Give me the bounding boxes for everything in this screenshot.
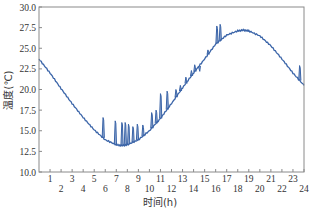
- temperature-spike: [155, 110, 157, 123]
- plot-area: [39, 24, 304, 146]
- x-tick-label: 16: [211, 184, 221, 194]
- x-tick-label: 9: [136, 174, 141, 184]
- temperature-spike: [216, 26, 218, 43]
- temperature-spike: [299, 66, 301, 81]
- x-tick-label: 21: [266, 174, 276, 184]
- temperature-spike: [198, 66, 200, 71]
- x-tick-label: 17: [222, 174, 232, 184]
- x-tick-label: 1: [48, 174, 53, 184]
- x-tick-label: 8: [125, 184, 130, 194]
- temperature-spike: [160, 94, 162, 119]
- x-tick-label: 2: [59, 184, 64, 194]
- x-tick-label: 19: [244, 174, 254, 184]
- x-axis-title: 时间(h): [143, 196, 177, 208]
- x-tick-label: 12: [167, 184, 177, 194]
- y-tick-label: 20.0: [19, 85, 36, 95]
- x-tick-label: 10: [145, 184, 155, 194]
- y-tick-label: 30.0: [19, 3, 36, 13]
- temperature-spike: [166, 91, 168, 109]
- x-tick-label: 18: [233, 184, 243, 194]
- temperature-spike: [114, 121, 116, 144]
- x-tick-label: 24: [299, 184, 309, 194]
- temperature-spike: [102, 118, 104, 138]
- y-tick-label: 12.5: [19, 147, 36, 157]
- temperature-spike: [179, 85, 181, 91]
- temperature-series-line: [39, 29, 304, 146]
- temperature-spike: [190, 71, 192, 76]
- temperature-spike: [185, 77, 187, 83]
- y-axis-title: 温度(℃): [2, 70, 14, 109]
- x-tick-label: 13: [178, 174, 188, 184]
- temperature-spike: [151, 113, 153, 129]
- temperature-spike: [194, 65, 196, 72]
- x-axis: 123456789101112131415161718192021222324: [48, 169, 309, 194]
- x-tick-label: 6: [103, 184, 108, 194]
- y-tick-label: 25.0: [19, 44, 36, 54]
- y-tick-label: 10.0: [19, 168, 36, 178]
- x-tick-label: 20: [255, 184, 265, 194]
- x-tick-label: 7: [114, 174, 119, 184]
- x-tick-label: 11: [156, 174, 165, 184]
- x-tick-label: 14: [189, 184, 199, 194]
- temperature-spike: [142, 125, 144, 136]
- temperature-spike: [128, 124, 130, 144]
- x-tick-label: 15: [200, 174, 210, 184]
- temperature-spike: [219, 24, 221, 40]
- y-tick-label: 27.5: [19, 23, 36, 33]
- y-tick-label: 22.5: [19, 64, 36, 74]
- temperature-spike: [124, 123, 126, 146]
- temperature-spike: [121, 123, 123, 146]
- temperature-spike: [132, 127, 134, 143]
- temperature-spike: [207, 50, 209, 55]
- x-tick-label: 4: [81, 184, 86, 194]
- x-tick-label: 22: [277, 184, 287, 194]
- y-tick-label: 15.0: [19, 126, 36, 136]
- temperature-line-chart: 10.012.515.017.520.022.525.027.530.0 123…: [0, 0, 311, 215]
- plot-frame: [39, 7, 304, 172]
- x-tick-label: 5: [92, 174, 97, 184]
- temperature-spike: [175, 90, 177, 98]
- x-tick-label: 3: [70, 174, 75, 184]
- x-tick-label: 23: [288, 174, 298, 184]
- temperature-spike: [136, 124, 138, 140]
- y-tick-label: 17.5: [19, 106, 36, 116]
